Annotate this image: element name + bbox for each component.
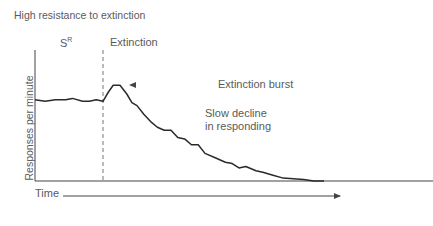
diagram-canvas xyxy=(0,0,433,226)
response-rate-curve xyxy=(35,85,324,181)
